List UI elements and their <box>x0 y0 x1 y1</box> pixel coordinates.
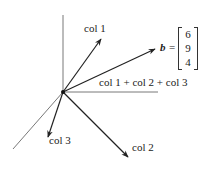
b-entry-2: 9 <box>183 43 193 54</box>
col1-arrow <box>63 39 101 92</box>
col3-label: col 3 <box>49 135 71 146</box>
origin-point <box>61 90 65 94</box>
right-bracket <box>194 27 198 70</box>
col1-label: col 1 <box>84 23 106 34</box>
col3-arrow <box>48 92 63 137</box>
sum-label: col 1 + col 2 + col 3 <box>99 77 187 88</box>
col2-label: col 2 <box>132 142 154 153</box>
b-entry-1: 6 <box>183 29 193 40</box>
left-bracket <box>178 27 182 70</box>
equals-sign: = <box>169 42 175 53</box>
col2-arrow <box>63 92 128 157</box>
b-entry-3: 4 <box>183 57 193 68</box>
b-symbol: b <box>160 42 166 53</box>
b-vector-matrix: 6 9 4 <box>178 27 198 70</box>
